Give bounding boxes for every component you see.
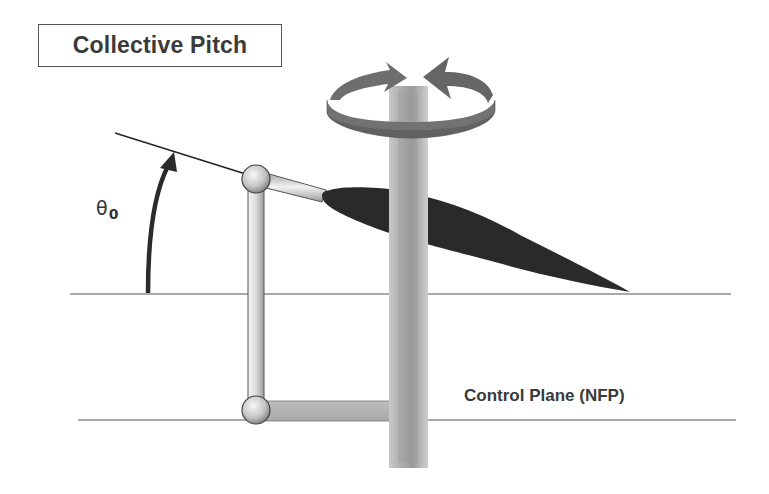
blade-chord-reference-line [115, 133, 252, 176]
pitch-angle-label: θ0 [96, 197, 118, 222]
theta-symbol: θ [96, 197, 108, 219]
pitch-angle-arrow [148, 152, 177, 293]
control-arm [262, 401, 392, 421]
title-box: Collective Pitch [38, 24, 282, 67]
blade-airfoil [322, 187, 630, 292]
upper-ball-joint [242, 165, 270, 193]
theta-subscript: 0 [109, 206, 119, 222]
collective-pitch-diagram: Collective Pitch θ0 Control Plane (NFP) [0, 0, 769, 494]
lower-ball-joint [242, 396, 270, 424]
diagram-title: Collective Pitch [73, 32, 247, 59]
pitch-link-rod [248, 182, 264, 410]
control-plane-label: Control Plane (NFP) [464, 386, 625, 406]
